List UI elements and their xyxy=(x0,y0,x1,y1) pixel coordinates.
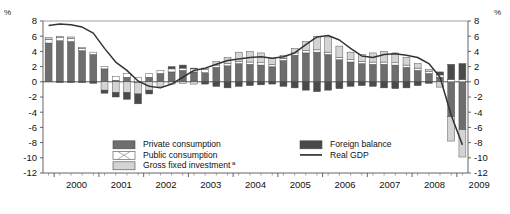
x-tick-label: 2003 xyxy=(200,179,221,190)
bar-segment xyxy=(291,55,298,82)
right-y-axis-ticks: 86420-2-4-6-8-10-12 xyxy=(468,15,488,178)
bar-stack xyxy=(403,57,410,87)
bar-segment xyxy=(45,39,52,43)
bar-segment xyxy=(123,92,130,99)
x-tick-label: 2004 xyxy=(245,179,266,190)
bar-segment xyxy=(179,68,186,70)
bar-segment xyxy=(459,80,466,82)
bar-stack xyxy=(448,64,455,141)
bar-segment xyxy=(79,82,86,83)
bar-segment xyxy=(112,82,119,93)
x-axis-ticks: 2000200120022003200420052006200720082009 xyxy=(49,173,490,190)
bar-stack xyxy=(67,37,74,83)
bar-stack xyxy=(325,37,332,90)
bar-stack xyxy=(358,54,365,85)
bar-segment xyxy=(314,82,321,92)
bar-segment xyxy=(302,82,309,90)
bar-segment xyxy=(325,37,332,52)
bar-segment xyxy=(224,64,231,66)
bar-segment xyxy=(269,64,276,66)
bar-stack xyxy=(179,65,186,83)
x-tick-label: 2008 xyxy=(424,179,445,190)
bar-segment xyxy=(425,82,432,84)
bar-segment xyxy=(369,64,376,81)
y-tick-label: 2 xyxy=(474,61,479,72)
bar-segment xyxy=(314,52,321,82)
bar-stack xyxy=(168,67,175,84)
bar-segment xyxy=(448,82,455,117)
bar-segment xyxy=(146,73,153,77)
left-y-axis-ticks: 86420-2-4-6-8-10-12 xyxy=(23,15,43,178)
bar-segment xyxy=(67,37,74,39)
bar-segment xyxy=(101,69,108,82)
bar-segment xyxy=(258,53,265,63)
bar-stack xyxy=(347,52,354,86)
bar-stack xyxy=(101,67,108,94)
legend-label: Public consumption xyxy=(143,150,218,160)
bar-stack xyxy=(381,51,388,87)
bar-stack xyxy=(269,58,276,84)
bar-stack xyxy=(392,53,399,89)
bar-segment xyxy=(291,82,298,88)
bar-segment xyxy=(403,82,410,88)
y-tick-label: 6 xyxy=(474,31,479,42)
bar-segment xyxy=(269,67,276,82)
bar-segment xyxy=(258,82,265,85)
x-tick-label: 2007 xyxy=(379,179,400,190)
bar-segment xyxy=(392,82,399,89)
x-tick-label: 2006 xyxy=(334,179,355,190)
bar-segment xyxy=(235,64,242,82)
x-tick-label: 2000 xyxy=(66,179,87,190)
bar-segment xyxy=(123,77,130,82)
bar-segment xyxy=(191,82,198,84)
bar-segment xyxy=(414,82,421,86)
bar-segment xyxy=(67,82,74,83)
bar-segment xyxy=(258,65,265,82)
y-tick-label: -10 xyxy=(23,152,37,163)
bar-segment xyxy=(56,82,63,83)
x-tick-label: 2009 xyxy=(469,179,490,190)
bar-segment xyxy=(347,60,354,62)
bar-segment xyxy=(280,58,287,60)
y-tick-label: -12 xyxy=(23,167,37,178)
bar-segment xyxy=(425,71,432,73)
bar-stack xyxy=(414,64,421,86)
y-tick-label: 0 xyxy=(474,76,479,87)
y-tick-label: -12 xyxy=(474,167,488,178)
y-tick-label: 2 xyxy=(32,61,37,72)
bar-segment xyxy=(179,82,186,84)
bar-segment xyxy=(269,82,276,84)
bar-segment xyxy=(459,82,466,130)
bar-segment xyxy=(403,57,410,65)
bar-segment xyxy=(347,52,354,60)
bar-segment xyxy=(90,54,97,81)
bar-segment xyxy=(347,62,354,82)
bar-segment xyxy=(213,82,220,87)
gross-fixed-investment-swatch xyxy=(113,162,135,170)
bar-segment xyxy=(56,41,63,82)
bar-segment xyxy=(459,64,466,80)
bar-segment xyxy=(280,82,287,87)
bar-stack xyxy=(202,68,209,84)
bar-stack xyxy=(425,70,432,84)
bar-segment xyxy=(325,54,332,81)
y-tick-label: 4 xyxy=(32,46,37,57)
bar-segment xyxy=(168,67,175,69)
bar-segment xyxy=(246,82,253,86)
y-tick-label: 0 xyxy=(32,76,37,87)
bar-segment xyxy=(179,65,186,68)
y-tick-label: 8 xyxy=(474,15,479,26)
bar-segment xyxy=(191,72,198,82)
bar-segment xyxy=(146,90,153,94)
bar-segment xyxy=(56,36,63,38)
bar-segment xyxy=(191,68,198,69)
foreign-balance-swatch xyxy=(300,141,322,149)
bar-segment xyxy=(347,82,354,87)
bar-stack xyxy=(45,38,52,82)
bar-segment xyxy=(224,66,231,82)
bar-segment xyxy=(414,64,421,69)
bar-segment xyxy=(79,51,86,82)
bar-stack xyxy=(56,36,63,82)
x-tick-label: 2001 xyxy=(111,179,132,190)
bar-segment xyxy=(381,64,388,81)
